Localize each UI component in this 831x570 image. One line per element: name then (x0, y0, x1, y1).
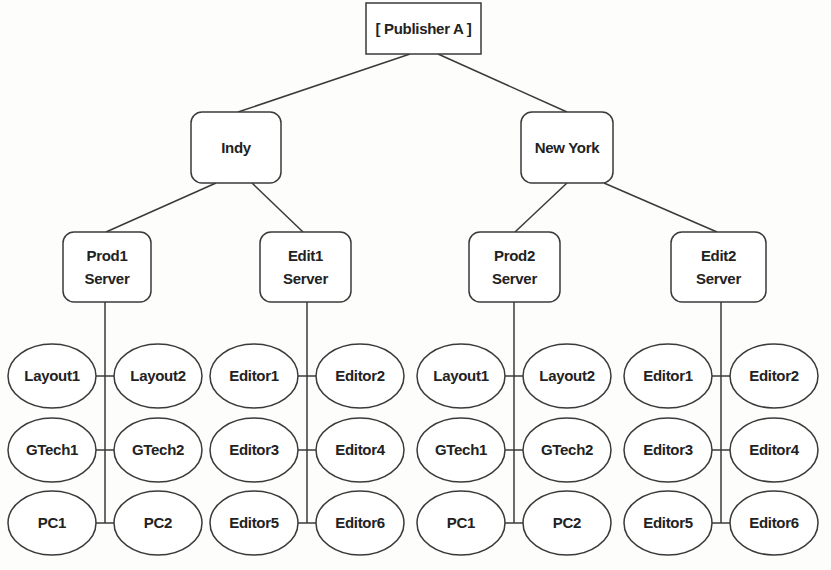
node-label: Editor4 (749, 441, 800, 458)
node-client: Editor4 (730, 418, 818, 482)
node-client: PC2 (523, 491, 611, 555)
node-client: Editor4 (316, 418, 404, 482)
node-label: Edit2 (701, 247, 736, 264)
node-client: Editor5 (210, 491, 298, 555)
node-site-indy: Indy (191, 112, 281, 183)
node-label: Editor3 (229, 441, 279, 458)
node-client: GTech2 (523, 418, 611, 482)
node-server-prod2: Prod2ServerLayout1Layout2GTech1GTech2PC1… (417, 232, 611, 555)
node-label: Server (85, 270, 130, 287)
node-client: Layout1 (8, 344, 96, 408)
node-label: Editor5 (229, 514, 279, 531)
node-label: Editor3 (643, 441, 693, 458)
node-client: PC1 (417, 491, 505, 555)
node-client: GTech1 (417, 418, 505, 482)
node-label: GTech1 (435, 441, 487, 458)
node-client: Editor3 (210, 418, 298, 482)
node-label: Prod1 (86, 247, 127, 264)
node-label: Editor5 (643, 514, 693, 531)
connector-line (604, 183, 717, 232)
node-label: PC1 (447, 514, 475, 531)
node-server-prod1: Prod1ServerLayout1Layout2GTech1GTech2PC1… (8, 232, 202, 555)
node-label: GTech2 (541, 441, 593, 458)
node-client: Editor2 (730, 344, 818, 408)
node-client: PC2 (114, 491, 202, 555)
node-label: Indy (221, 139, 252, 156)
node-client: Layout1 (417, 344, 505, 408)
node-label: Server (492, 270, 537, 287)
node-label: Editor2 (749, 367, 799, 384)
node-label: Editor1 (229, 367, 279, 384)
node-label: Edit1 (288, 247, 323, 264)
node-label: Editor6 (335, 514, 385, 531)
node-publisher: [ Publisher A ] (366, 3, 481, 54)
node-label: Layout2 (130, 367, 185, 384)
node-label: [ Publisher A ] (375, 20, 471, 37)
node-client: PC1 (8, 491, 96, 555)
node-label: Editor6 (749, 514, 799, 531)
node-client: Editor5 (624, 491, 712, 555)
node-label: Server (283, 270, 328, 287)
node-client: Editor1 (210, 344, 298, 408)
node-label: Editor1 (643, 367, 693, 384)
connector-line (238, 54, 410, 112)
node-client: GTech2 (114, 418, 202, 482)
node-client: Layout2 (523, 344, 611, 408)
node-label: Layout2 (539, 367, 594, 384)
node-client: Editor3 (624, 418, 712, 482)
node-client: GTech1 (8, 418, 96, 482)
node-client: Editor2 (316, 344, 404, 408)
node-server-edit1: Edit1ServerEditor1Editor2Editor3Editor4E… (210, 232, 404, 555)
node-client: Editor6 (730, 491, 818, 555)
node-site-newyork: New York (521, 112, 613, 183)
node-client: Editor6 (316, 491, 404, 555)
node-label: PC2 (144, 514, 172, 531)
connector-line (106, 183, 216, 232)
node-label: Server (696, 270, 741, 287)
network-hierarchy-diagram: [ Publisher A ]IndyProd1ServerLayout1Lay… (0, 0, 831, 570)
node-client: Layout2 (114, 344, 202, 408)
node-label: New York (535, 139, 601, 156)
node-label: PC2 (553, 514, 581, 531)
node-label: GTech1 (26, 441, 78, 458)
node-label: Layout1 (24, 367, 79, 384)
connector-line (438, 54, 567, 112)
node-client: Editor1 (624, 344, 712, 408)
node-label: Prod2 (494, 247, 535, 264)
connector-line (252, 183, 303, 232)
node-label: Editor4 (335, 441, 386, 458)
node-label: Layout1 (433, 367, 488, 384)
node-label: Editor2 (335, 367, 385, 384)
node-label: PC1 (38, 514, 66, 531)
node-server-edit2: Edit2ServerEditor1Editor2Editor3Editor4E… (624, 232, 818, 555)
connector-line (515, 183, 567, 232)
node-label: GTech2 (132, 441, 184, 458)
